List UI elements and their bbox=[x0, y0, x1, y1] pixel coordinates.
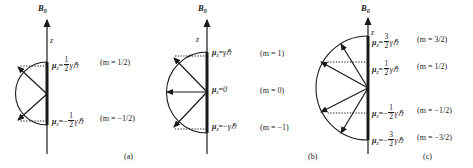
quantum-number-m-minus-half: (m = −1/2) bbox=[417, 106, 452, 115]
space-quantization-figure: B0 z bbox=[0, 0, 473, 168]
moment-vector-m-minus-one bbox=[174, 92, 207, 127]
quantum-number-m-minus-one: (m = −1) bbox=[260, 123, 289, 132]
z-axis-label: z bbox=[50, 36, 53, 45]
quantum-number-m-plus-one: (m = 1) bbox=[260, 49, 284, 58]
moment-vector-m-plus-one bbox=[174, 58, 207, 92]
mu-z-value-upper: μz=12γℏ bbox=[52, 56, 78, 72]
mu-z-value-m-zero: μz=0 bbox=[212, 86, 227, 96]
mu-z-value-m-half: μz=12γℏ bbox=[372, 60, 398, 76]
panel-b-graphics bbox=[160, 0, 313, 168]
panel-spin-one: B0 z μz=γℏ (m = 1) bbox=[160, 0, 313, 168]
mu-z-value-m-minus-three-halves: μz=−32γℏ bbox=[372, 131, 403, 147]
quantum-number-lower: (m = −1/2) bbox=[100, 114, 135, 123]
quantum-number-upper: (m = 1/2) bbox=[100, 58, 130, 67]
moment-vector-up bbox=[18, 67, 47, 94]
cone-envelope-arc bbox=[316, 36, 368, 140]
panel-spin-half: B0 z bbox=[0, 0, 160, 168]
panel-caption-c: (c) bbox=[423, 152, 432, 161]
quantum-number-m-minus-three-halves: (m = −3/2) bbox=[417, 133, 452, 142]
mu-z-value-m-minus-one: μz=−γℏ bbox=[212, 123, 236, 133]
mu-z-value-lower: μz=−12γℏ bbox=[52, 112, 83, 128]
quantum-number-m-half: (m = 1/2) bbox=[417, 62, 447, 71]
mu-z-value-m-minus-half: μz=−12γℏ bbox=[372, 104, 403, 120]
mu-z-value-m-three-halves: μz=32γℏ bbox=[372, 33, 398, 49]
z-axis-label: z bbox=[196, 35, 199, 44]
moment-vector-m-three-halves bbox=[341, 44, 368, 88]
panel-spin-three-halves: B0 z μz=32γℏ (m = 3/2) bbox=[313, 0, 473, 168]
quantum-number-m-three-halves: (m = 3/2) bbox=[417, 35, 447, 44]
mu-z-value-m-plus-one: μz=γℏ bbox=[212, 49, 231, 59]
panel-caption-a: (a) bbox=[124, 152, 133, 161]
panel-a-graphics bbox=[0, 0, 160, 168]
cone-envelope-arc bbox=[16, 62, 48, 125]
quantum-number-m-zero: (m = 0) bbox=[260, 86, 284, 95]
moment-vector-down bbox=[18, 94, 47, 120]
moment-vector-m-half bbox=[321, 62, 368, 88]
